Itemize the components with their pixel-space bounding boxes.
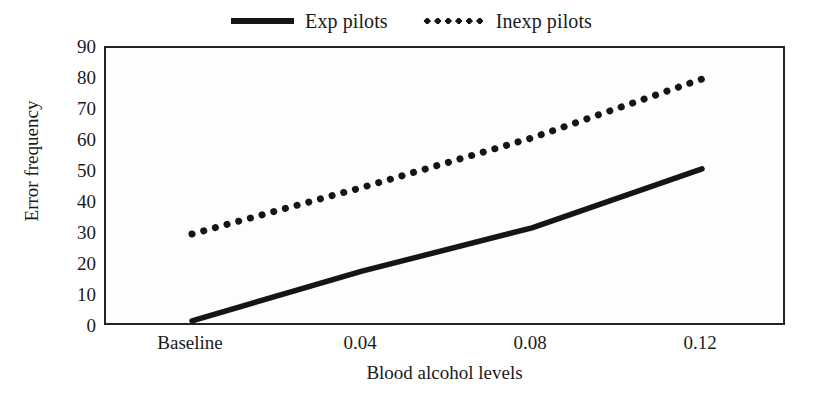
- x-axis-tick-label: Baseline: [157, 333, 222, 353]
- y-axis-tick-label: 60: [52, 130, 96, 149]
- chart-legend: Exp pilots Inexp pilots: [0, 6, 823, 36]
- chart-figure: Exp pilots Inexp pilots Error frequency …: [0, 0, 823, 398]
- y-axis-tick-label: 90: [52, 37, 96, 56]
- x-axis-tick-labels: Baseline0.040.080.12: [104, 333, 785, 357]
- x-axis-title: Blood alcohol levels: [104, 362, 785, 384]
- y-axis-tick-labels: 9080706050403020100: [52, 46, 96, 325]
- y-axis-tick-label: 70: [52, 99, 96, 118]
- y-axis-tick-label: 50: [52, 161, 96, 180]
- legend-entry-exp-pilots: Exp pilots: [231, 11, 388, 31]
- legend-label-exp-pilots: Exp pilots: [305, 11, 388, 31]
- y-axis-tick-label: 10: [52, 285, 96, 304]
- legend-entry-inexp-pilots: Inexp pilots: [422, 11, 592, 31]
- solid-line-swatch-icon: [231, 18, 294, 24]
- x-axis-tick-label: 0.08: [513, 333, 546, 353]
- series-line-inexp-pilots: [192, 79, 702, 234]
- y-axis-tick-label: 0: [52, 316, 96, 335]
- plot-area: [104, 46, 785, 325]
- y-axis-tick-label: 20: [52, 254, 96, 273]
- legend-label-inexp-pilots: Inexp pilots: [496, 11, 592, 31]
- plot-series-svg: [106, 48, 787, 327]
- y-axis-tick-label: 80: [52, 68, 96, 87]
- series-line-exp-pilots: [192, 169, 702, 321]
- y-axis-tick-label: 30: [52, 223, 96, 242]
- y-axis-title: Error frequency: [21, 21, 43, 301]
- x-axis-tick-label: 0.04: [343, 333, 376, 353]
- y-axis-tick-label: 40: [52, 192, 96, 211]
- dotted-line-swatch-icon: [422, 18, 485, 24]
- x-axis-tick-label: 0.12: [683, 333, 716, 353]
